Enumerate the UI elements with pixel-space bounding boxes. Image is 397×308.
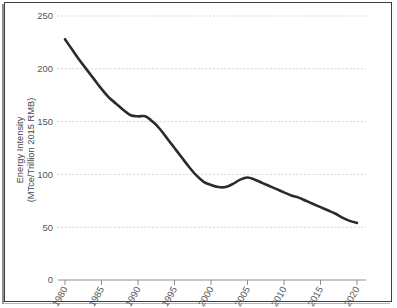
x-tick-label-2010: 2010	[269, 285, 289, 308]
x-tick-label-1985: 1985	[86, 285, 106, 308]
data-series-energy-intensity	[65, 39, 357, 223]
x-axis-tick-labels: 198019851990199520002005201020152020	[50, 285, 362, 308]
x-tick-label-2000: 2000	[196, 285, 216, 308]
y-tick-label-250: 250	[37, 10, 53, 21]
y-axis-title-line-1: Energy Intensity	[15, 116, 25, 183]
y-axis-title-line-2: (MTce/Trillion 2015 RMB)	[26, 98, 36, 203]
y-axis-title: Energy Intensity (MTce/Trillion 2015 RMB…	[15, 98, 36, 203]
y-tick-label-200: 200	[37, 63, 53, 74]
y-tick-label-50: 50	[42, 222, 53, 233]
x-tick-label-2020: 2020	[342, 285, 362, 308]
x-tick-label-1980: 1980	[50, 285, 70, 308]
tick-marks	[65, 280, 357, 285]
gridlines	[57, 16, 366, 227]
figure-container: 050100150200250 198019851990199520002005…	[0, 0, 397, 308]
y-tick-label-100: 100	[37, 169, 53, 180]
y-axis-tick-labels: 050100150200250	[37, 10, 53, 285]
x-tick-label-2015: 2015	[305, 285, 325, 308]
series-line-energy-intensity	[65, 39, 357, 223]
line-chart: 050100150200250 198019851990199520002005…	[0, 0, 397, 308]
y-tick-label-150: 150	[37, 116, 53, 127]
y-tick-label-0: 0	[48, 274, 53, 285]
x-tick-label-1990: 1990	[123, 285, 143, 308]
x-tick-label-1995: 1995	[159, 285, 179, 308]
x-tick-label-2005: 2005	[232, 285, 252, 308]
